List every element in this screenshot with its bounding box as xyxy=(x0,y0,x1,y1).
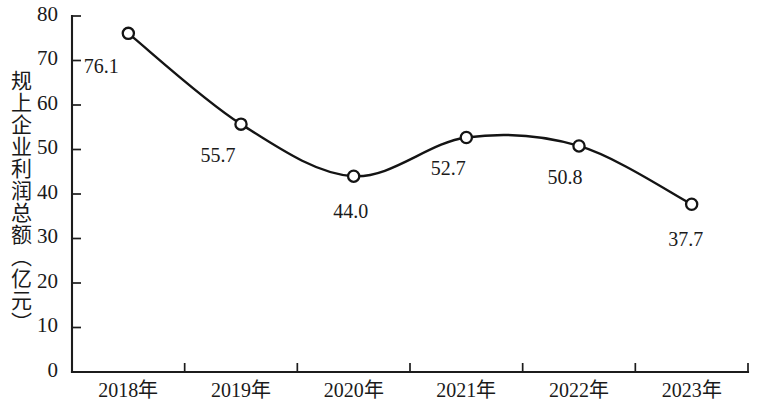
data-point-marker xyxy=(235,119,246,130)
y-axis-tick-label: 0 xyxy=(48,358,59,382)
data-point-markers xyxy=(123,28,698,210)
data-point-marker xyxy=(348,171,359,182)
data-point-marker xyxy=(573,140,584,151)
y-axis-tick-labels: 01020304050607080 xyxy=(37,2,58,382)
y-axis-tick-label: 50 xyxy=(37,135,58,159)
series-line-path xyxy=(128,33,691,204)
y-axis-tick-marks xyxy=(72,16,81,328)
y-axis-tick-label: 10 xyxy=(37,313,58,337)
x-axis-tick-label: 2023年 xyxy=(662,379,722,401)
y-axis-tick-label: 20 xyxy=(37,269,58,293)
data-point-marker xyxy=(123,28,134,39)
x-axis-tick-label: 2021年 xyxy=(436,379,496,401)
x-axis-tick-labels: 2018年2019年2020年2021年2022年2023年 xyxy=(98,379,721,401)
data-point-label: 52.7 xyxy=(431,157,466,179)
data-point-label: 44.0 xyxy=(333,200,368,222)
y-axis-tick-label: 30 xyxy=(37,224,58,248)
data-point-labels: 76.155.744.052.750.837.7 xyxy=(84,55,703,250)
data-point-marker xyxy=(686,199,697,210)
data-point-label: 76.1 xyxy=(84,55,119,77)
data-point-label: 50.8 xyxy=(548,166,583,188)
data-point-marker xyxy=(461,132,472,143)
y-axis-tick-label: 80 xyxy=(37,2,58,26)
x-axis-tick-label: 2022年 xyxy=(549,379,609,401)
y-axis-tick-label: 70 xyxy=(37,46,58,70)
x-axis-tick-label: 2019年 xyxy=(211,379,271,401)
x-axis-tick-label: 2018年 xyxy=(98,379,158,401)
y-axis-title: 规上企业利润总额（亿元） xyxy=(8,70,33,334)
line-chart: 规上企业利润总额（亿元） 01020304050607080 76.155.74… xyxy=(0,0,760,404)
chart-canvas: 规上企业利润总额（亿元） 01020304050607080 76.155.74… xyxy=(0,0,760,404)
x-axis-tick-label: 2020年 xyxy=(324,379,384,401)
x-axis-tick-marks xyxy=(185,363,748,372)
y-axis-tick-label: 60 xyxy=(37,91,58,115)
y-axis-tick-label: 40 xyxy=(37,180,58,204)
data-point-label: 37.7 xyxy=(668,228,703,250)
data-point-label: 55.7 xyxy=(201,144,236,166)
